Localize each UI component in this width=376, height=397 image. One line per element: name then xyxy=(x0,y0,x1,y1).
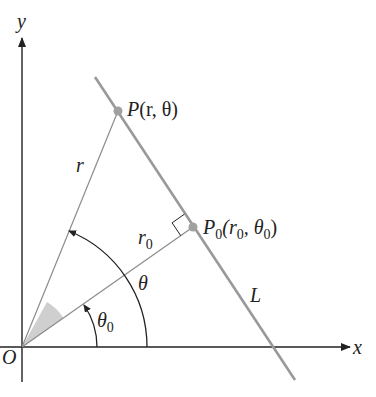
line-L-label: L xyxy=(249,284,261,306)
point-P-label: P(r, θ) xyxy=(126,98,178,121)
point-P0-label: P0(r0, θ0) xyxy=(202,216,277,242)
right-angle-marker xyxy=(172,214,184,235)
point-P0 xyxy=(189,223,198,232)
origin-label: O xyxy=(2,346,16,368)
segment-r-label: r xyxy=(76,154,84,176)
segment-r0-label: r0 xyxy=(138,226,153,252)
x-axis-label: x xyxy=(352,336,362,358)
polar-line-diagram: y x O P(r, θ) P0(r0, θ0) r r0 L θ θ0 xyxy=(0,0,376,397)
y-axis-label: y xyxy=(15,10,26,33)
theta0-arc xyxy=(84,305,97,347)
theta0-label: θ0 xyxy=(97,309,114,335)
theta-label: θ xyxy=(138,272,148,294)
point-P xyxy=(114,107,123,116)
shaded-sector xyxy=(22,302,64,347)
